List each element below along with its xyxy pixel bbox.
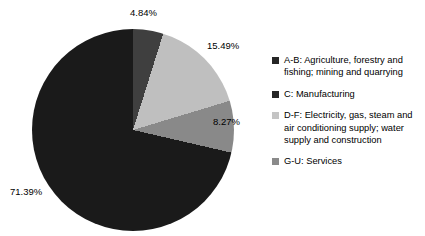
legend-item-ab[interactable]: A-B: Agriculture, forestry and fishing; … (272, 54, 422, 79)
legend-label-gu: G-U: Services (284, 155, 342, 167)
legend-swatch-icon-gu (272, 158, 279, 165)
slice-percent-label-c: 15.49% (207, 41, 239, 51)
legend-item-df[interactable]: D-F: Electricity, gas, steam and air con… (272, 109, 422, 146)
slice-percent-label-df: 8.27% (213, 117, 240, 127)
legend-swatch-icon-ab (272, 57, 279, 64)
legend-swatch-icon-c (272, 91, 279, 98)
slice-percent-label-ab: 4.84% (130, 8, 157, 18)
pie-chart: 4.84% 15.49% 8.27% 71.39% A-B: Agricultu… (0, 0, 425, 236)
pie-graphic (32, 29, 234, 231)
legend-item-gu[interactable]: G-U: Services (272, 155, 422, 167)
slice-percent-label-gu: 71.39% (10, 187, 42, 197)
legend-swatch-icon-df (272, 112, 279, 119)
pie-plot-area: 4.84% 15.49% 8.27% 71.39% (0, 0, 262, 236)
legend-label-ab: A-B: Agriculture, forestry and fishing; … (284, 54, 422, 79)
legend-label-c: C: Manufacturing (284, 88, 355, 100)
chart-legend: A-B: Agriculture, forestry and fishing; … (272, 54, 422, 177)
legend-item-c[interactable]: C: Manufacturing (272, 88, 422, 100)
legend-label-df: D-F: Electricity, gas, steam and air con… (284, 109, 422, 146)
